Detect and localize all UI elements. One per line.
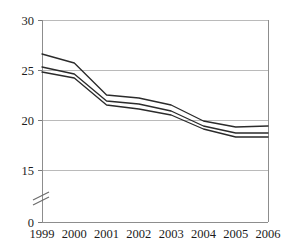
x-tick-label-2006: 2006	[256, 227, 281, 241]
y-axis-break-marker	[33, 192, 49, 205]
line-chart-figure: 015202530 199920002001200220032004200520…	[0, 0, 282, 248]
x-tick-label-2005: 2005	[223, 227, 248, 241]
x-tick-label-1999: 1999	[30, 227, 55, 241]
axis-ticks	[38, 21, 42, 223]
y-axis-tick-labels: 015202530	[22, 14, 35, 230]
x-tick-label-2002: 2002	[126, 227, 151, 241]
x-tick-label-2004: 2004	[191, 227, 217, 241]
x-tick-label-2001: 2001	[94, 227, 119, 241]
plot-area: 015202530 199920002001200220032004200520…	[0, 0, 282, 248]
x-tick-label-2000: 2000	[62, 227, 87, 241]
y-tick-label-30: 30	[22, 14, 35, 28]
y-tick-label-20: 20	[22, 114, 35, 128]
series-line-estimate	[42, 67, 268, 133]
y-tick-label-15: 15	[22, 164, 35, 178]
chart-svg: 015202530 199920002001200220032004200520…	[0, 0, 282, 248]
x-tick-label-2003: 2003	[159, 227, 184, 241]
y-tick-label-25: 25	[22, 64, 35, 78]
series-line-upper-bound	[42, 54, 268, 127]
data-series	[42, 54, 268, 137]
gridlines	[42, 21, 268, 171]
x-axis-tick-labels: 19992000200120022003200420052006	[30, 227, 281, 241]
axes	[42, 20, 269, 223]
